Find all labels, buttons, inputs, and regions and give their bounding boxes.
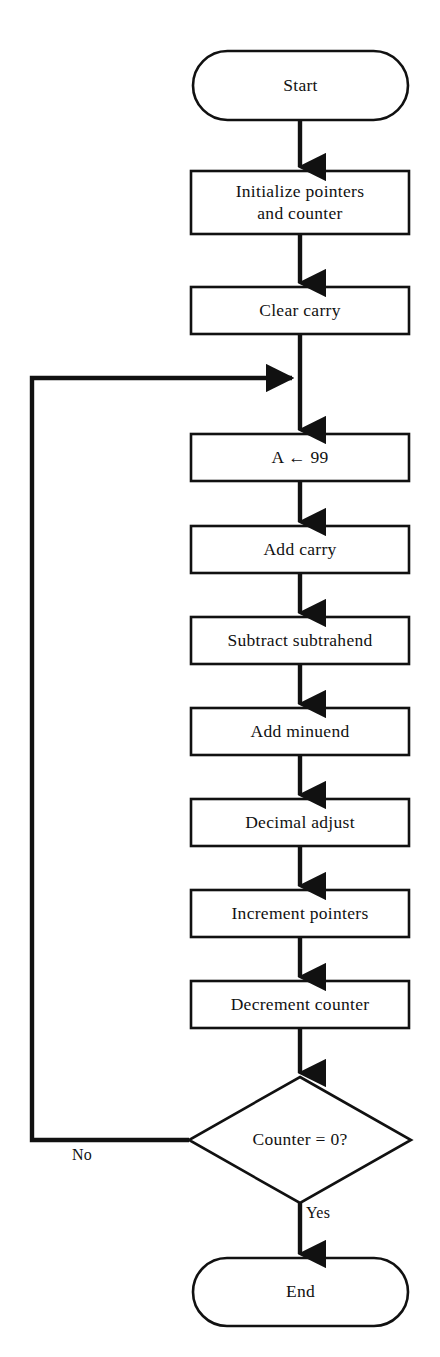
node-shape-load bbox=[191, 434, 409, 481]
flowchart-graphics bbox=[0, 0, 440, 1357]
node-shape-addmin bbox=[191, 708, 409, 755]
node-shape-addcarry bbox=[191, 526, 409, 573]
node-shape-init bbox=[191, 171, 409, 234]
node-shape-incptr bbox=[191, 890, 409, 937]
node-shape-start bbox=[193, 51, 408, 120]
node-shape-decision bbox=[189, 1077, 411, 1203]
node-shape-decadj bbox=[191, 799, 409, 846]
node-shape-deccnt bbox=[191, 981, 409, 1028]
node-shape-end bbox=[193, 1258, 408, 1326]
node-shape-subtract bbox=[191, 617, 409, 664]
node-shape-clear bbox=[191, 287, 409, 334]
flowchart-canvas: Start Initialize pointers and counter Cl… bbox=[0, 0, 440, 1357]
